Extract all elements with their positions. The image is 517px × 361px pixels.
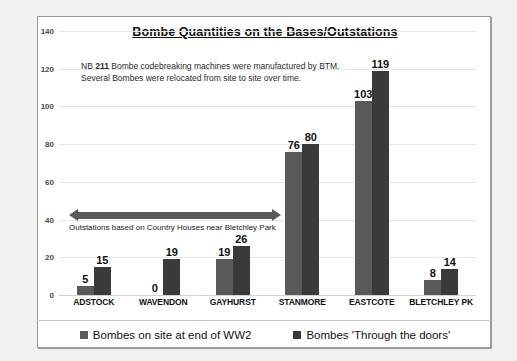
bar-group: 019 — [129, 31, 199, 295]
legend-item-series-1[interactable]: Bombes on site at end of WW2 — [80, 329, 252, 341]
bar-value-label: 0 — [152, 282, 158, 294]
bar-group: 814 — [407, 31, 477, 295]
bar-value-label: 8 — [430, 267, 436, 279]
legend-swatch-icon-series-2 — [293, 331, 301, 339]
ytick-label-120: 120 — [41, 64, 54, 73]
bar-group: 7680 — [268, 31, 338, 295]
ytick-label-140: 140 — [41, 27, 54, 36]
legend-item-series-2[interactable]: Bombes 'Through the doors' — [293, 329, 450, 341]
chart-frame: Bombe Quantities on the Bases/Outstation… — [37, 16, 491, 348]
category-label: STANMORE — [268, 297, 338, 307]
bar-slot: 19 — [216, 31, 233, 295]
category-label: EASTCOTE — [337, 297, 407, 307]
bar-slot: 80 — [302, 31, 319, 295]
bar-slot: 26 — [233, 31, 250, 295]
bars-container: 51501919267680103119814 — [59, 31, 476, 295]
bar[interactable] — [94, 267, 111, 295]
bar[interactable] — [424, 280, 441, 295]
category-axis: ADSTOCKWAVENDONGAYHURSTSTANMOREEASTCOTEB… — [59, 297, 476, 307]
bar[interactable] — [302, 144, 319, 295]
outstations-arrow-annotation: Outstations based on Country Houses near… — [69, 209, 294, 232]
legend-swatch-icon-series-1 — [80, 331, 88, 339]
bar-value-label: 19 — [166, 246, 178, 258]
bar-value-label: 19 — [218, 246, 230, 258]
bar-slot: 5 — [77, 31, 94, 295]
bar-value-label: 5 — [82, 273, 88, 285]
bar[interactable] — [163, 259, 180, 295]
category-label: ADSTOCK — [59, 297, 129, 307]
legend-label-series-1: Bombes on site at end of WW2 — [93, 329, 252, 341]
bar[interactable] — [372, 71, 389, 295]
bar-slot: 119 — [372, 31, 389, 295]
ytick-label-60: 60 — [45, 177, 54, 186]
ytick-label-80: 80 — [45, 140, 54, 149]
ytick-label-100: 100 — [41, 102, 54, 111]
bar-slot: 19 — [163, 31, 180, 295]
chart-legend: Bombes on site at end of WW2 Bombes 'Thr… — [39, 320, 491, 348]
bar[interactable] — [355, 101, 372, 295]
plot-area: 140 120 100 80 60 40 20 0 NB 211 Bombe c… — [59, 31, 476, 295]
category-label: BLETCHLEY PK — [407, 297, 477, 307]
bar[interactable] — [233, 246, 250, 295]
double-arrow-icon — [69, 209, 281, 222]
bar-group: 103119 — [337, 31, 407, 295]
bar-value-label: 76 — [288, 139, 300, 151]
bar-value-label: 26 — [235, 233, 247, 245]
bar-value-label: 103 — [354, 88, 372, 100]
bar[interactable] — [216, 259, 233, 295]
bar-group: 1926 — [198, 31, 268, 295]
outstations-arrow-caption: Outstations based on Country Houses near… — [69, 223, 294, 232]
bar-slot: 14 — [441, 31, 458, 295]
bar-value-label: 80 — [305, 131, 317, 143]
bar-slot: 15 — [94, 31, 111, 295]
bar-value-label: 14 — [444, 256, 456, 268]
arrow-shaft — [76, 212, 274, 219]
bar[interactable] — [77, 286, 94, 295]
bar-slot: 0 — [146, 31, 163, 295]
ytick-label-20: 20 — [45, 253, 54, 262]
chart-page: Bombe Quantities on the Bases/Outstation… — [0, 0, 517, 361]
bar-slot: 76 — [285, 31, 302, 295]
bar[interactable] — [441, 269, 458, 295]
category-label: GAYHURST — [198, 297, 268, 307]
bar-value-label: 15 — [96, 254, 108, 266]
gridline-0: 0 — [59, 295, 476, 296]
category-label: WAVENDON — [129, 297, 199, 307]
bar-slot: 103 — [355, 31, 372, 295]
ytick-label-40: 40 — [45, 215, 54, 224]
ytick-label-0: 0 — [50, 291, 54, 300]
bar-value-label: 119 — [371, 58, 389, 70]
bar-group: 515 — [59, 31, 129, 295]
bar-slot: 8 — [424, 31, 441, 295]
legend-label-series-2: Bombes 'Through the doors' — [306, 329, 450, 341]
arrow-head-right-icon — [272, 209, 281, 221]
